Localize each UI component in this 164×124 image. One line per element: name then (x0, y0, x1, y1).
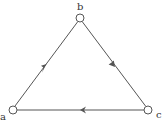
triangle-digraph: b a c (0, 0, 164, 124)
node-b (76, 14, 84, 22)
node-label-c: c (156, 109, 162, 120)
node-label-b: b (77, 1, 83, 12)
node-a (9, 106, 17, 114)
arrow-head-a-b-icon (41, 64, 47, 73)
edge-a-b (15, 22, 78, 106)
node-c (144, 106, 152, 114)
node-label-a: a (0, 111, 6, 122)
